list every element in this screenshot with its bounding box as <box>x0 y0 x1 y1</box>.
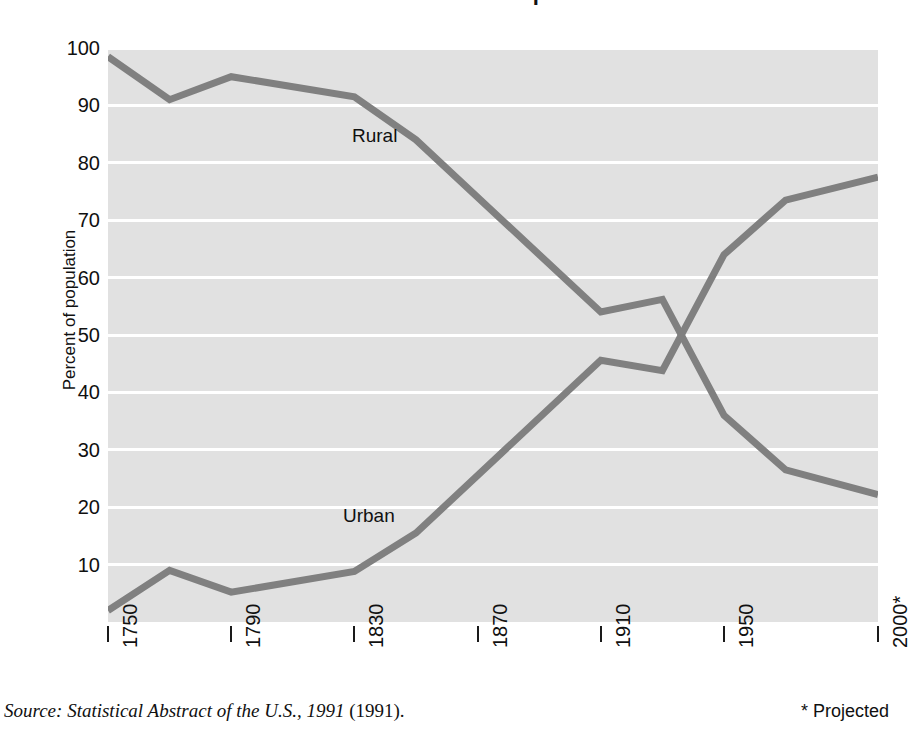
plot-area <box>108 48 878 622</box>
x-axis-tick <box>477 626 479 642</box>
x-axis-tick <box>877 626 879 642</box>
x-axis-tick <box>353 626 355 642</box>
y-axis-tick-label: 20 <box>44 497 100 517</box>
y-axis-tick-label: 40 <box>44 382 100 402</box>
series-label-rural: Rural <box>352 125 397 147</box>
chart-title-clipped: U.S. Rural and Urban Population <box>0 0 897 14</box>
chart-title-text: U.S. Rural and Urban Population <box>279 0 619 6</box>
series-label-urban: Urban <box>343 505 395 527</box>
y-axis-tick-label: 100 <box>44 38 100 58</box>
x-axis-tick <box>723 626 725 642</box>
series-lines <box>108 48 878 622</box>
y-axis-tick-label: 60 <box>44 268 100 288</box>
source-note: Source: Statistical Abstract of the U.S.… <box>4 700 405 722</box>
x-axis-tick <box>230 626 232 642</box>
series-line-urban <box>108 177 878 610</box>
x-axis-tick-label: 1950 <box>734 624 758 648</box>
y-axis-tick-label: 10 <box>44 555 100 575</box>
y-axis-tick-label: 50 <box>44 325 100 345</box>
y-axis-tick-label: 70 <box>44 210 100 230</box>
projected-note: * Projected <box>801 701 889 722</box>
x-axis-tick <box>600 626 602 642</box>
x-axis-tick-label: 1750 <box>118 624 142 648</box>
x-axis-tick-label: 2000* <box>888 624 912 648</box>
x-axis-tick-label: 1870 <box>488 624 512 648</box>
x-axis-tick-label: 1830 <box>364 624 388 648</box>
source-note-year: (1991). <box>344 700 404 721</box>
x-axis-tick <box>107 626 109 642</box>
x-axis-tick-label: 1790 <box>241 624 265 648</box>
x-axis-tick-label: 1910 <box>611 624 635 648</box>
source-note-main: Source: Statistical Abstract of the U.S.… <box>4 700 344 721</box>
series-line-rural <box>108 57 878 495</box>
y-axis-tick-label: 90 <box>44 95 100 115</box>
y-axis-tick-label: 30 <box>44 440 100 460</box>
y-axis-tick-label: 80 <box>44 153 100 173</box>
